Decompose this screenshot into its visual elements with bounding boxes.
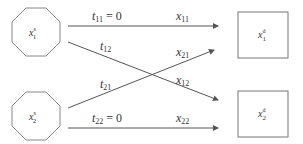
source-2-label: xs2 xyxy=(28,110,37,125)
arrow-line xyxy=(68,42,218,100)
edge-s2-d2: t22 = 0 x22 xyxy=(68,111,218,128)
edge-flow-label: x12 xyxy=(175,73,189,88)
edge-flow-label: x21 xyxy=(175,45,189,60)
edge-time-label: t12 xyxy=(100,39,111,54)
edge-time-label: t22 = 0 xyxy=(92,111,122,126)
destination-node-2: xd2 xyxy=(238,91,288,137)
edge-s1-d1: t11 = 0 x11 xyxy=(68,9,218,26)
edge-flow-label: x22 xyxy=(175,111,189,126)
edge-time-label: t21 xyxy=(100,77,111,92)
source-1-label: xs1 xyxy=(28,26,37,41)
edge-s2-d1: t21 x21 xyxy=(68,45,214,108)
source-node-2: xs2 xyxy=(12,92,60,140)
edge-s1-d2: t12 x12 xyxy=(68,39,218,100)
octagon-shape xyxy=(12,92,60,140)
arrow-line xyxy=(68,50,214,108)
destination-2-label: xd2 xyxy=(257,107,266,122)
transport-diagram: xs1 xs2 xd1 xd2 t11 = 0 x11 t12 x12 t21 … xyxy=(0,0,303,144)
source-node-1: xs1 xyxy=(12,8,60,56)
edge-flow-label: x11 xyxy=(175,9,189,24)
octagon-shape xyxy=(12,8,60,56)
edge-time-label: t11 = 0 xyxy=(92,9,122,24)
destination-node-1: xd1 xyxy=(238,12,288,58)
destination-1-label: xd1 xyxy=(257,28,266,43)
